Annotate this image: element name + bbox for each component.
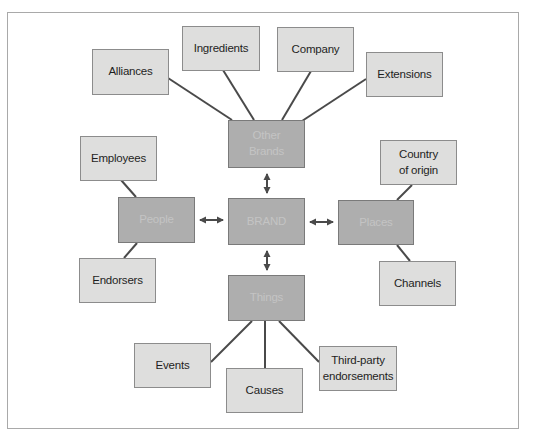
node-label: Company — [292, 42, 340, 58]
node-label: Country of origin — [399, 147, 438, 178]
node-endorsers: Endorsers — [79, 258, 156, 303]
edge-people-endorsers — [124, 243, 137, 258]
node-channels: Channels — [379, 261, 456, 306]
node-label: Causes — [246, 383, 284, 399]
node-ingredients: Ingredients — [182, 26, 260, 71]
edge-places-country — [397, 185, 412, 200]
edge-other-brands-extensions — [302, 79, 366, 121]
node-causes: Causes — [226, 368, 303, 413]
node-label: BRAND — [247, 214, 286, 230]
center-brand: BRAND — [228, 198, 305, 245]
hub-places: Places — [338, 200, 414, 245]
edge-people-employees — [121, 180, 136, 197]
node-country-of-origin: Country of origin — [380, 140, 457, 185]
node-extensions: Extensions — [366, 52, 443, 97]
node-label: Ingredients — [194, 41, 249, 57]
node-label: Endorsers — [92, 273, 143, 289]
edge-things-events — [211, 321, 252, 362]
edge-other-brands-alliances — [168, 78, 232, 120]
node-employees: Employees — [80, 136, 157, 181]
node-alliances: Alliances — [92, 49, 169, 95]
hub-other-brands: Other Brands — [228, 120, 305, 168]
edge-things-third-party — [279, 321, 319, 362]
node-label: Things — [250, 290, 283, 306]
hub-things: Things — [228, 275, 305, 321]
node-label: Other Brands — [249, 128, 284, 159]
node-label: Third-party endorsements — [323, 353, 393, 384]
node-label: People — [139, 212, 174, 228]
node-label: Places — [359, 215, 392, 231]
node-label: Channels — [394, 276, 441, 292]
node-label: Extensions — [377, 67, 431, 83]
node-label: Alliances — [108, 64, 152, 80]
edge-other-brands-ingredients — [223, 70, 254, 120]
edge-places-channels — [397, 245, 410, 261]
hub-people: People — [118, 197, 195, 243]
node-events: Events — [134, 343, 211, 388]
node-label: Employees — [91, 151, 146, 167]
edge-other-brands-company — [282, 71, 311, 120]
node-label: Events — [156, 358, 190, 374]
node-company: Company — [277, 27, 354, 72]
node-third-party-endorsements: Third-party endorsements — [319, 346, 397, 391]
